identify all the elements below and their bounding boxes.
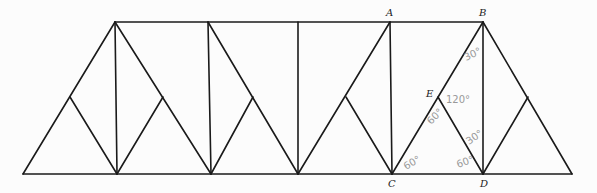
node-label-B: B: [478, 7, 486, 18]
node-label-D: D: [479, 178, 488, 189]
vertical-1: [115, 22, 117, 174]
node-label-A: A: [385, 7, 393, 18]
angle-annotations: 30° 120° 60° 30° 60° 60°: [402, 45, 485, 171]
angle-E-top-label: 120°: [446, 94, 470, 105]
truss-diagram: A B C D E 30° 120° 60° 30° 60° 60°: [0, 0, 597, 193]
sub-diagonal-1: [70, 97, 117, 174]
vertical-2: [208, 22, 211, 174]
sub-diagonal-4: [346, 97, 392, 174]
sub-diagonal-6: [483, 97, 528, 174]
angle-C-label: 60°: [402, 153, 423, 171]
node-label-C: C: [388, 178, 396, 189]
vertical-AC: [390, 22, 392, 174]
sub-diagonal-2: [117, 97, 163, 174]
angle-B-label: 30°: [462, 45, 483, 62]
truss-members: [23, 22, 572, 174]
angle-E-left-label: 60°: [425, 106, 445, 126]
left-end-diagonal: [23, 22, 115, 174]
diagonal-3: [298, 22, 390, 174]
angle-D-upper-label: 30°: [464, 127, 485, 146]
sub-diagonal-3: [211, 97, 253, 174]
angle-D-lower-label: 60°: [455, 153, 475, 169]
node-label-E: E: [425, 88, 434, 99]
